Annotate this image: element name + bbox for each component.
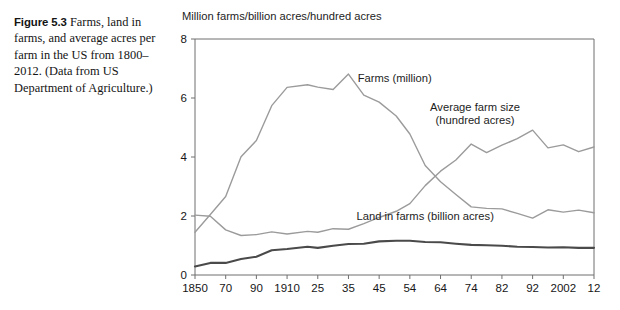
x-tick-label: 12: [588, 282, 601, 294]
series-label: Average farm size: [430, 101, 520, 113]
x-tick-label: 90: [250, 282, 263, 294]
figure-container: Figure 5.3 Farms, land in farms, and ave…: [0, 0, 620, 310]
data-series-group: [195, 74, 594, 266]
series-labels-group: Farms (million)Average farm size(hundred…: [356, 72, 520, 223]
y-tick-label: 8: [181, 33, 187, 45]
x-tick-label: 70: [219, 282, 232, 294]
x-tick-label: 25: [311, 282, 324, 294]
line-chart-svg: 02468 1850709019102535455464748292200212…: [170, 0, 620, 310]
y-tick-label: 2: [181, 210, 187, 222]
x-tick-label: 74: [465, 282, 478, 294]
x-tick-label: 1910: [274, 282, 300, 294]
series-line: [195, 74, 594, 232]
series-label: (hundred acres): [436, 114, 515, 126]
y-tick-label: 4: [181, 151, 188, 163]
x-axis-ticks: 1850709019102535455464748292200212: [182, 275, 600, 294]
x-tick-label: 64: [434, 282, 447, 294]
y-tick-label: 6: [181, 92, 187, 104]
x-tick-label: 54: [403, 282, 416, 294]
series-label: Land in farms (billion acres): [356, 210, 494, 222]
x-tick-label: 45: [373, 282, 386, 294]
y-axis-ticks: 02468: [181, 33, 195, 281]
figure-caption: Figure 5.3 Farms, land in farms, and ave…: [14, 14, 166, 96]
x-tick-label: 1850: [182, 282, 208, 294]
figure-number: Figure 5.3: [14, 16, 67, 28]
chart: Million farms/billion acres/hundred acre…: [170, 0, 620, 310]
x-tick-label: 2002: [551, 282, 577, 294]
x-tick-label: 35: [342, 282, 355, 294]
x-tick-label: 92: [526, 282, 539, 294]
series-label: Farms (million): [358, 72, 432, 84]
x-tick-label: 82: [496, 282, 509, 294]
series-line: [195, 241, 594, 267]
y-tick-label: 0: [181, 269, 187, 281]
